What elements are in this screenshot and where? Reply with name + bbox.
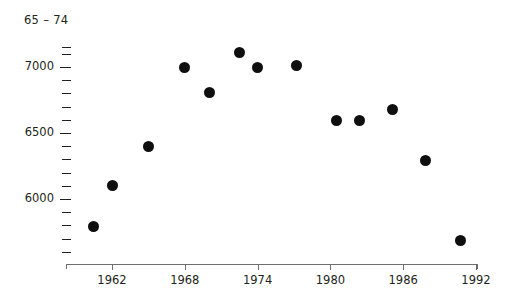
data-point (107, 180, 118, 191)
y-axis-tick-minor (62, 239, 71, 240)
chart-container: 65 – 74 700065006000 1962196819741980198… (0, 0, 509, 303)
y-axis-tick-major (60, 199, 71, 200)
chart-title: 65 – 74 (24, 13, 68, 27)
data-point (143, 141, 154, 152)
y-axis-tick-minor (62, 93, 71, 94)
x-axis-tick-label: 1986 (389, 273, 418, 287)
y-axis-tick-minor (62, 80, 71, 81)
data-point (179, 62, 190, 73)
y-axis-tick-label: 7000 (8, 59, 54, 73)
y-axis-tick-minor (62, 225, 71, 226)
data-point (331, 115, 342, 126)
y-axis-tick-minor (62, 252, 71, 253)
x-axis-tick-label: 1962 (97, 273, 126, 287)
data-point (354, 115, 365, 126)
data-point (252, 62, 263, 73)
x-axis-tick (185, 264, 186, 270)
x-axis-tick-label: 1974 (243, 273, 272, 287)
data-point (234, 47, 245, 58)
data-point (291, 60, 302, 71)
y-axis-tick-label: 6000 (8, 191, 54, 205)
y-axis-tick-minor (62, 212, 71, 213)
x-axis-tick (258, 264, 259, 270)
x-axis-end-cap (66, 264, 67, 269)
x-axis-end-cap (477, 264, 478, 269)
y-axis-tick-minor (62, 186, 71, 187)
data-point (88, 221, 99, 232)
y-axis-tick-minor (62, 120, 71, 121)
y-axis-tick-minor (62, 107, 71, 108)
x-axis-line (66, 264, 477, 265)
y-axis-tick-label: 6500 (8, 125, 54, 139)
data-point (387, 104, 398, 115)
x-axis-tick (403, 264, 404, 270)
y-axis-tick-minor (62, 159, 71, 160)
data-point (204, 87, 215, 98)
y-axis-tick-minor (62, 47, 71, 48)
y-axis-tick-minor (62, 54, 71, 55)
data-point (420, 155, 431, 166)
y-axis-tick-minor (62, 146, 71, 147)
x-axis-tick-label: 1968 (170, 273, 199, 287)
x-axis-tick-label: 1980 (316, 273, 345, 287)
x-axis-tick (330, 264, 331, 270)
y-axis-tick-minor (62, 173, 71, 174)
x-axis-tick-label: 1992 (461, 273, 490, 287)
y-axis-tick-major (60, 133, 71, 134)
y-axis-tick-major (60, 67, 71, 68)
x-axis-tick (112, 264, 113, 270)
data-point (455, 235, 466, 246)
